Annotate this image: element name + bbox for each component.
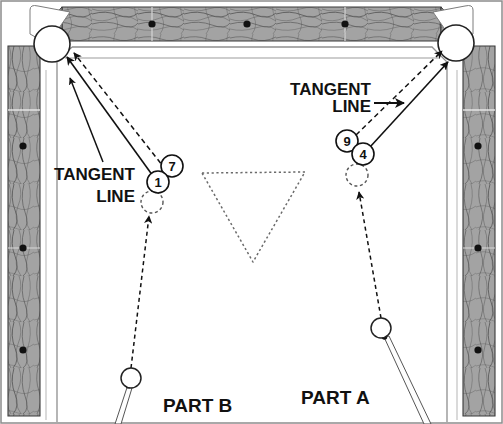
diamond-spot-top-3	[341, 20, 348, 27]
part-a-label: PART A	[301, 387, 370, 408]
pool-diagram-canvas: 7 1 9 4 TANGENT LINE TAN	[0, 0, 503, 424]
ball-9-label: 9	[343, 134, 350, 149]
table-outer-border	[1, 1, 502, 423]
ball-1[interactable]: 1	[147, 171, 169, 193]
top-rail	[62, 7, 441, 41]
pocket-top-right[interactable]	[438, 25, 474, 61]
diamond-spot-left-1	[19, 142, 26, 149]
tangent-line-label-a-line2: LINE	[332, 97, 371, 116]
diamond-spot-right-2	[474, 244, 481, 251]
ball-4-label: 4	[359, 147, 367, 162]
ball-4[interactable]: 4	[352, 143, 374, 165]
table-frame	[1, 1, 502, 423]
cue-ball-b[interactable]	[121, 368, 141, 388]
pocket-top-left[interactable]	[34, 26, 70, 62]
tangent-line-label-b-line1: TANGENT	[54, 165, 136, 184]
cue-ball-a[interactable]	[371, 318, 391, 338]
diamond-spot-right-3	[474, 346, 481, 353]
right-rail	[463, 46, 495, 416]
left-rail	[8, 46, 40, 416]
diamond-spot-top-1	[148, 20, 155, 27]
billiards-tangent-line-diagram: 7 1 9 4 TANGENT LINE TAN	[0, 0, 503, 424]
diamond-spot-top-2	[243, 20, 250, 27]
tangent-line-label-b-line2: LINE	[96, 187, 135, 206]
ball-1-label: 1	[154, 175, 161, 190]
diamond-spot-left-3	[19, 346, 26, 353]
diamond-spot-left-2	[19, 244, 26, 251]
part-b-label: PART B	[163, 395, 232, 416]
ball-7-label: 7	[168, 159, 175, 174]
diamond-spot-right-1	[474, 142, 481, 149]
